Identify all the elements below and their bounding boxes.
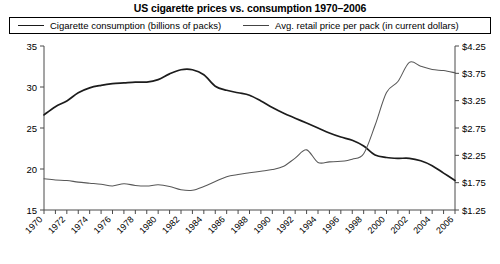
x-tick-label: 2002 [389,214,410,235]
x-tick-label: 1994 [297,214,318,235]
y-tick-label-left: 15 [26,205,37,216]
x-tick-label: 1992 [274,214,295,235]
chart-container: US cigarette prices vs. consumption 1970… [0,0,500,264]
x-tick-label: 1976 [92,214,113,235]
x-tick-label: 1996 [320,214,341,235]
x-tick-label: 1974 [69,214,90,235]
x-tick-label: 1984 [183,214,204,235]
x-tick-label: 1998 [343,214,364,235]
y-tick-label-right: $3.25 [462,95,486,106]
plot-area: 3530252015$4.25$3.75$3.25$2.75$2.25$1.75… [0,0,500,264]
y-tick-label-left: 30 [26,82,37,93]
y-tick-label-right: $2.75 [462,123,486,134]
series-line-price [44,62,455,191]
x-tick-label: 2000 [366,214,387,235]
x-tick-label: 1970 [23,214,44,235]
y-tick-label-left: 20 [26,164,37,175]
y-tick-label-right: $3.75 [462,68,486,79]
x-tick-label: 1982 [160,214,181,235]
y-tick-label-left: 35 [26,41,37,52]
y-tick-label-left: 25 [26,123,37,134]
y-tick-label-right: $2.25 [462,150,486,161]
x-tick-label: 1990 [252,214,273,235]
y-tick-label-right: $1.75 [462,177,486,188]
x-tick-label: 1972 [46,214,67,235]
x-tick-label: 1980 [137,214,158,235]
x-tick-label: 2006 [434,214,455,235]
y-tick-label-right: $4.25 [462,41,486,52]
x-tick-label: 1988 [229,214,250,235]
x-tick-label: 2004 [411,214,432,235]
x-tick-label: 1986 [206,214,227,235]
y-tick-label-right: $1.25 [462,205,486,216]
x-tick-label: 1978 [115,214,136,235]
